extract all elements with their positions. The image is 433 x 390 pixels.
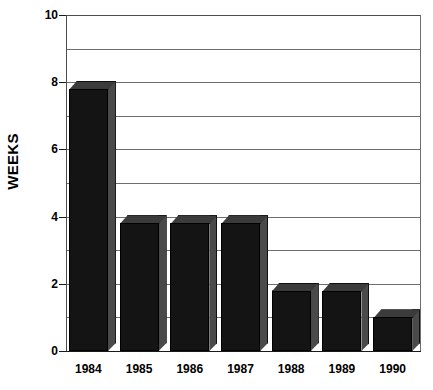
x-axis-tick-label: 1985 [119,363,159,375]
bar-1990 [0,0,433,390]
x-axis-tick-label: 1987 [221,363,261,375]
x-axis-tick-label: 1988 [271,363,311,375]
x-axis-tick-label: 1989 [322,363,362,375]
x-axis-tick-label: 1990 [373,363,413,375]
bar-front-face [373,317,412,351]
x-axis-tick-label: 1984 [68,363,108,375]
bar-chart: WEEKS 0246810 19841985198619871988198919… [0,0,433,390]
x-axis-tick-label: 1986 [170,363,210,375]
